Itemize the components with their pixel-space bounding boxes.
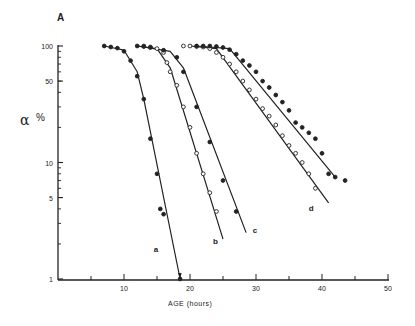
filled-point [155, 172, 159, 176]
panel-label: A [57, 12, 64, 23]
filled-point [241, 59, 245, 63]
open-point [188, 44, 192, 48]
curve-label-d: d [309, 204, 314, 213]
filled-point [208, 140, 212, 144]
open-point [215, 51, 219, 55]
filled-point [116, 46, 120, 50]
x-tick-label: 50 [384, 285, 392, 292]
filled-point [201, 44, 205, 48]
open-point [267, 114, 271, 118]
x-axis-label: AGE (hours) [168, 300, 212, 307]
filled-point [221, 179, 225, 183]
open-point [294, 151, 298, 155]
curve-label-c: c [253, 226, 258, 235]
filled-point [267, 86, 271, 90]
y-tick-label: 10 [45, 160, 53, 167]
open-point [168, 70, 172, 74]
filled-point [248, 64, 252, 68]
y-axis-label: α [20, 112, 29, 128]
filled-point [287, 109, 291, 113]
filled-point [343, 179, 347, 183]
open-point [208, 191, 212, 195]
filled-point [274, 93, 278, 97]
filled-point [135, 74, 139, 78]
open-point [221, 55, 225, 59]
open-point [300, 161, 304, 165]
open-point [287, 144, 291, 148]
filled-point [195, 105, 199, 109]
filled-point [162, 48, 166, 52]
filled-point [149, 46, 153, 50]
filled-point [327, 172, 331, 176]
filled-point [122, 49, 126, 53]
filled-point [208, 44, 212, 48]
filled-point [135, 44, 139, 48]
open-point [307, 172, 311, 176]
open-point [175, 83, 179, 87]
filled-point [109, 45, 113, 49]
filled-point [281, 100, 285, 104]
open-point [182, 105, 186, 109]
open-point [254, 97, 258, 101]
y-tick-label: 50 [45, 78, 53, 85]
filled-point [102, 44, 106, 48]
open-point [314, 186, 318, 190]
y-tick-label: 5 [49, 195, 53, 202]
fit-line-a [104, 46, 180, 279]
open-point [165, 61, 169, 65]
filled-point [228, 48, 232, 52]
open-point [241, 79, 245, 83]
chart-svg: 1510501001020304050 abcd [0, 0, 415, 326]
x-tick-label: 40 [318, 285, 326, 292]
filled-point [158, 207, 162, 211]
x-tick-label: 30 [252, 285, 260, 292]
open-point [248, 88, 252, 92]
fit-line-d [190, 46, 329, 203]
filled-point [333, 175, 337, 179]
open-point [261, 107, 265, 111]
open-point [281, 134, 285, 138]
open-point [195, 151, 199, 155]
open-point [215, 210, 219, 214]
filled-point [307, 131, 311, 135]
filled-point [221, 46, 225, 50]
filled-point [215, 45, 219, 49]
filled-point [234, 210, 238, 214]
filled-point [182, 70, 186, 74]
filled-point [294, 121, 298, 125]
curve-labels: abcd [154, 204, 314, 254]
filled-point [178, 277, 182, 281]
filled-point [142, 45, 146, 49]
x-tick-label: 20 [186, 285, 194, 292]
open-point [182, 44, 186, 48]
y-tick-label: 1 [49, 276, 53, 283]
open-point [228, 62, 232, 66]
open-point [201, 172, 205, 176]
x-tick-label: 10 [120, 285, 128, 292]
y-axis-unit: % [36, 112, 45, 123]
filled-point [314, 137, 318, 141]
filled-point [234, 52, 238, 56]
filled-point [149, 137, 153, 141]
filled-point [129, 59, 133, 63]
curve-label-b: b [213, 237, 218, 246]
open-point [234, 70, 238, 74]
filled-point [320, 151, 324, 155]
filled-point [300, 126, 304, 130]
filled-point [162, 212, 166, 216]
curve-label-a: a [154, 245, 159, 254]
axes: 1510501001020304050 [41, 43, 392, 292]
filled-point [195, 44, 199, 48]
open-point [155, 47, 159, 51]
y-tick-label: 100 [41, 43, 53, 50]
filled-point [175, 55, 179, 59]
filled-point [261, 79, 265, 83]
open-point [188, 126, 192, 130]
filled-point [142, 97, 146, 101]
filled-point [254, 70, 258, 74]
open-point [274, 123, 278, 127]
